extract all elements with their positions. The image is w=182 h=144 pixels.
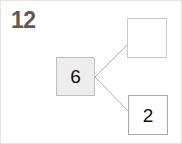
connector-to-top-part	[95, 45, 127, 77]
number-bond-worksheet: 12 6 2	[0, 0, 182, 144]
part-number-box-bottom[interactable]: 2	[128, 95, 168, 135]
whole-number-value: 6	[70, 67, 81, 86]
part-number-box-top[interactable]	[127, 18, 167, 58]
part-number-value-bottom: 2	[143, 106, 154, 125]
connector-to-bottom-part	[95, 77, 128, 111]
whole-number-box[interactable]: 6	[56, 57, 95, 96]
